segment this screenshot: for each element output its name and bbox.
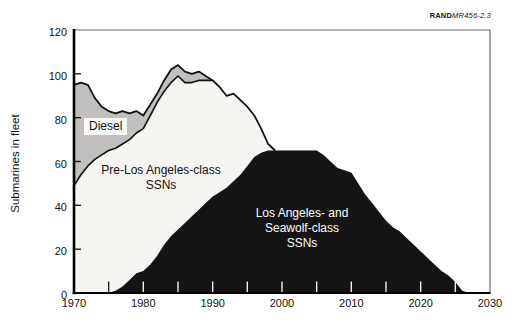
figure-credit: RANDMR456-2.3 xyxy=(430,11,491,20)
y-tick-label: 100 xyxy=(37,70,67,82)
pre-la-area-label: Pre-Los Angeles-class SSNs xyxy=(101,163,220,193)
x-tick-label: 2010 xyxy=(329,297,373,309)
y-tick-label: 60 xyxy=(37,158,67,170)
y-axis-title: Submarines in fleet xyxy=(9,84,24,244)
diesel-area-label: Diesel xyxy=(84,118,127,135)
y-tick-label: 20 xyxy=(37,245,67,257)
la-seawolf-area-label: Los Angeles- and Seawolf-class SSNs xyxy=(256,206,349,251)
x-tick-label: 2030 xyxy=(468,297,512,309)
figure-container: RANDMR456-2.3 Submarines in fleet Diesel… xyxy=(0,0,527,332)
x-tick-label: 2020 xyxy=(399,297,443,309)
x-tick-label: 1980 xyxy=(121,297,165,309)
y-tick-label: 120 xyxy=(37,26,67,38)
x-tick-label: 2000 xyxy=(260,297,304,309)
x-tick-label: 1990 xyxy=(191,297,235,309)
figure-credit-publisher: RAND xyxy=(430,11,452,20)
figure-credit-number: MR456-2.3 xyxy=(452,11,491,20)
submarine-fleet-area-chart xyxy=(0,0,527,332)
y-tick-label: 40 xyxy=(37,201,67,213)
y-tick-label: 80 xyxy=(37,114,67,126)
x-tick-label: 1970 xyxy=(52,297,96,309)
